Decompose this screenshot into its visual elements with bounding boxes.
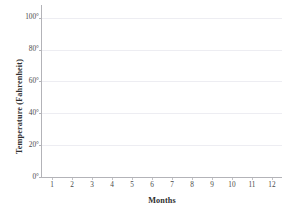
x-tick-label: 10 bbox=[222, 180, 242, 189]
x-tick-mark bbox=[212, 178, 213, 180]
x-axis-tick-labels: 123456789101112 bbox=[0, 0, 289, 214]
x-tick-label: 11 bbox=[242, 180, 262, 189]
x-tick-mark bbox=[192, 178, 193, 180]
x-tick-label: 8 bbox=[182, 180, 202, 189]
x-tick-label: 3 bbox=[82, 180, 102, 189]
x-tick-label: 12 bbox=[262, 180, 282, 189]
x-tick-mark bbox=[92, 178, 93, 180]
x-tick-mark bbox=[52, 178, 53, 180]
x-tick-mark bbox=[72, 178, 73, 180]
x-axis-title: Months bbox=[42, 196, 282, 205]
x-tick-label: 4 bbox=[102, 180, 122, 189]
x-tick-mark bbox=[152, 178, 153, 180]
x-tick-mark bbox=[232, 178, 233, 180]
x-tick-label: 7 bbox=[162, 180, 182, 189]
x-tick-mark bbox=[112, 178, 113, 180]
x-tick-mark bbox=[132, 178, 133, 180]
x-tick-mark bbox=[252, 178, 253, 180]
x-tick-label: 6 bbox=[142, 180, 162, 189]
x-tick-mark bbox=[272, 178, 273, 180]
temperature-months-chart: Temperature (Fahrenheit) 0°20°40°60°80°1… bbox=[0, 0, 289, 214]
x-tick-label: 9 bbox=[202, 180, 222, 189]
x-tick-mark bbox=[172, 178, 173, 180]
x-tick-label: 2 bbox=[62, 180, 82, 189]
x-tick-label: 5 bbox=[122, 180, 142, 189]
x-tick-label: 1 bbox=[42, 180, 62, 189]
